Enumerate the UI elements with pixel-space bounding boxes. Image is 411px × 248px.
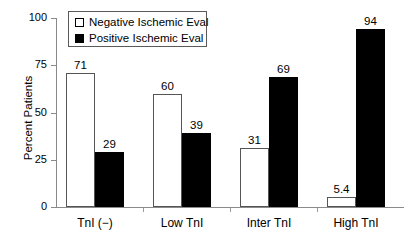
bar bbox=[153, 94, 182, 207]
bar bbox=[356, 29, 385, 207]
bar-value-label: 71 bbox=[52, 59, 109, 71]
bar bbox=[182, 133, 211, 207]
legend-swatch-filled-icon bbox=[75, 34, 84, 43]
y-tick-label: 50 bbox=[5, 107, 47, 118]
bar-value-label: 39 bbox=[168, 119, 225, 131]
x-tick-label: High TnI bbox=[301, 216, 411, 230]
y-tick-label: 100 bbox=[5, 12, 47, 23]
legend: Negative Ischemic Eval Positive Ischemic… bbox=[68, 11, 207, 47]
bar bbox=[269, 77, 298, 207]
y-tick-label: 0 bbox=[5, 201, 47, 212]
bar-value-label: 69 bbox=[255, 63, 312, 75]
bar bbox=[240, 148, 269, 207]
legend-label-negative: Negative Ischemic Eval bbox=[89, 16, 209, 28]
bar bbox=[95, 152, 124, 207]
bar-value-label: 94 bbox=[342, 15, 399, 27]
legend-swatch-open-icon bbox=[75, 18, 84, 27]
bar-value-label: 29 bbox=[81, 138, 138, 150]
x-tick-mark bbox=[230, 208, 231, 212]
bar bbox=[327, 197, 356, 207]
bar-chart: Percent Patients 0255075100 712960393169… bbox=[0, 0, 411, 248]
x-tick-mark bbox=[317, 208, 318, 212]
y-tick-label: 75 bbox=[5, 59, 47, 70]
legend-item-negative: Negative Ischemic Eval bbox=[75, 15, 206, 29]
x-tick-mark bbox=[143, 208, 144, 212]
y-axis-line bbox=[56, 18, 57, 208]
bar-value-label: 60 bbox=[139, 80, 196, 92]
y-tick-label: 25 bbox=[5, 154, 47, 165]
legend-item-positive: Positive Ischemic Eval bbox=[75, 31, 206, 45]
legend-label-positive: Positive Ischemic Eval bbox=[89, 32, 203, 44]
